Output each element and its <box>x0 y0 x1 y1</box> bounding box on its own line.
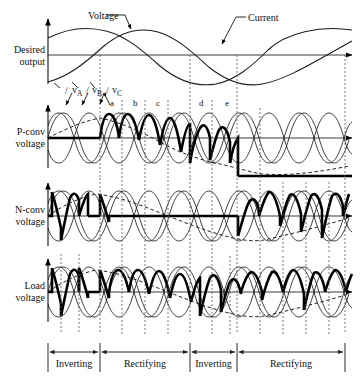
current-waveform <box>48 29 352 85</box>
panel-label-desired-line2: output <box>0 56 45 67</box>
mark-a: a <box>110 98 114 109</box>
panel-desired-output <box>48 15 352 95</box>
mode-label-3: Inverting <box>190 358 237 369</box>
phase-b-sub: B <box>97 89 102 98</box>
panel-label-nconv-line1: N-conv <box>0 204 45 215</box>
mark-c: c <box>156 98 160 109</box>
mode-label-4: Rectifying <box>237 358 345 369</box>
current-leader-arrow <box>222 17 236 44</box>
phase-divider-1: / <box>65 85 68 96</box>
panel-label-load-line1: Load <box>0 280 45 291</box>
phase-label-a: vA <box>72 84 82 99</box>
zero-cross-guides <box>100 55 345 95</box>
panel-label-nconv-line2: voltage <box>0 216 45 227</box>
mode-label-2: Rectifying <box>100 358 190 369</box>
panel-load-voltage <box>48 254 352 334</box>
mode-label-1: Inverting <box>48 358 100 369</box>
phase-a-sub: A <box>77 89 82 98</box>
nconv-output-trace <box>48 192 349 240</box>
mark-b: b <box>133 98 138 109</box>
phase-divider-2: / <box>86 85 89 96</box>
pconv-average-curve <box>48 118 349 175</box>
panel-label-pconv-line1: P-conv <box>0 126 45 137</box>
waveform-diagram <box>0 0 361 386</box>
phase-divider-3: / <box>106 85 109 96</box>
voltage-waveform <box>48 30 352 85</box>
phase-c-sub: C <box>117 89 122 98</box>
phase-label-b: vB <box>92 84 102 99</box>
pconv-output-trace <box>48 114 352 176</box>
current-label: Current <box>248 12 279 23</box>
panel-label-desired-line1: Desired <box>0 44 45 55</box>
voltage-leader-arrow <box>125 15 131 29</box>
voltage-label: Voltage <box>88 10 118 21</box>
mark-e: e <box>225 98 229 109</box>
panel-label-load-line2: voltage <box>0 292 45 303</box>
phase-label-c: vC <box>112 84 122 99</box>
mark-d: d <box>199 98 204 109</box>
panel-n-conv-voltage <box>48 178 352 254</box>
panel-label-pconv-line2: voltage <box>0 138 45 149</box>
